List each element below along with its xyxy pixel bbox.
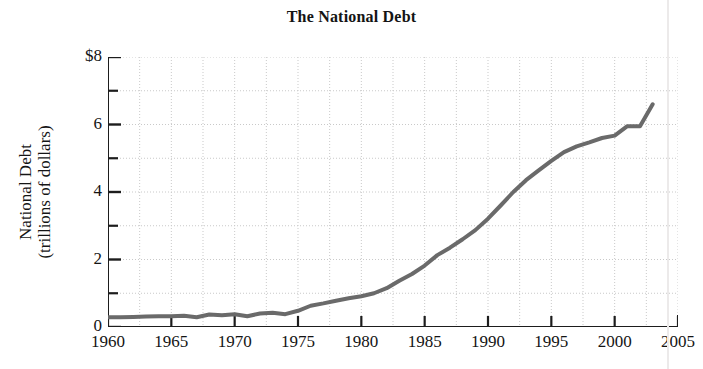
debt-data-line <box>108 104 653 317</box>
chart-title: The National Debt <box>0 8 703 26</box>
plot-area <box>108 57 678 327</box>
y-tick-label: 2 <box>62 249 102 269</box>
y-axis-ticks <box>108 57 121 327</box>
x-tick-label: 1980 <box>329 332 393 352</box>
y-tick-label: 4 <box>62 181 102 201</box>
y-axis-title-line1: National Debt <box>16 144 35 240</box>
x-axis-tick-labels: 1960196519701975198019851990199520002005 <box>108 332 678 360</box>
plot-svg <box>108 57 678 327</box>
x-tick-label: 2005 <box>646 332 703 352</box>
x-tick-label: 1975 <box>266 332 330 352</box>
national-debt-chart-figure: The National Debt National Debt (trillio… <box>0 0 703 369</box>
x-tick-label: 1960 <box>76 332 140 352</box>
x-tick-label: 1995 <box>519 332 583 352</box>
y-tick-label: $8 <box>62 46 102 66</box>
y-axis-title-line2: (trillions of dollars) <box>35 125 54 258</box>
x-tick-label: 1970 <box>203 332 267 352</box>
x-tick-label: 1965 <box>139 332 203 352</box>
y-tick-label: 6 <box>62 114 102 134</box>
x-tick-label: 2000 <box>583 332 647 352</box>
y-axis-title: National Debt (trillions of dollars) <box>4 57 66 327</box>
y-axis-tick-labels: $86420 <box>58 57 102 327</box>
x-tick-label: 1985 <box>393 332 457 352</box>
y-axis-title-text: National Debt (trillions of dollars) <box>16 125 54 258</box>
x-tick-label: 1990 <box>456 332 520 352</box>
